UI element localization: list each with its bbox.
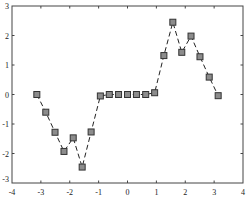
- data-point-marker: [79, 164, 85, 170]
- x-tick-label: 3: [212, 188, 216, 197]
- data-point-marker: [133, 92, 139, 98]
- data-point-marker: [197, 54, 203, 60]
- y-tick-label: 1: [5, 61, 9, 70]
- x-tick-label: 2: [183, 188, 187, 197]
- data-point-marker: [61, 148, 67, 154]
- data-point-marker: [97, 93, 103, 99]
- y-tick-label: 0: [5, 91, 9, 100]
- x-tick-label: 0: [126, 188, 130, 197]
- data-point-marker: [88, 129, 94, 135]
- data-point-marker: [106, 92, 112, 98]
- y-tick-label: 2: [5, 32, 9, 41]
- x-tick-label: -4: [9, 188, 16, 197]
- data-point-marker: [34, 92, 40, 98]
- data-point-marker: [152, 90, 158, 96]
- data-point-marker: [125, 92, 131, 98]
- y-tick-label: 3: [5, 2, 9, 11]
- data-point-marker: [170, 19, 176, 25]
- data-point-marker: [215, 93, 221, 99]
- data-point-marker: [52, 129, 58, 135]
- y-tick-label: -1: [2, 120, 9, 129]
- data-point-marker: [161, 53, 167, 59]
- data-point-marker: [188, 33, 194, 39]
- data-point-marker: [206, 74, 212, 80]
- data-point-marker: [179, 49, 185, 55]
- x-tick-label: 1: [154, 188, 158, 197]
- y-tick-label: -2: [2, 150, 9, 159]
- data-point-marker: [143, 92, 149, 98]
- y-tick-label: -3: [2, 175, 9, 184]
- x-tick-label: 4: [241, 188, 245, 197]
- data-point-marker: [70, 135, 76, 141]
- x-tick-label: -2: [66, 188, 73, 197]
- data-point-marker: [43, 109, 49, 115]
- data-point-marker: [116, 92, 122, 98]
- line-chart: -4-3-2-101234 -3-2-10123: [0, 0, 248, 205]
- x-tick-label: -1: [95, 188, 102, 197]
- x-tick-label: -3: [38, 188, 45, 197]
